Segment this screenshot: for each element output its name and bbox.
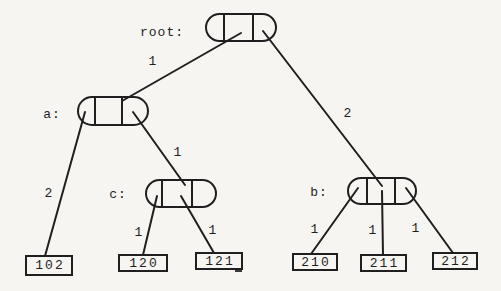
leaf-box-210: 210 bbox=[292, 253, 338, 271]
node-label-b: b: bbox=[310, 186, 328, 199]
leaf-value-102: 102 bbox=[35, 259, 64, 272]
leaf-box-102: 102 bbox=[25, 255, 73, 276]
edge-lines bbox=[45, 31, 453, 256]
edge-c-120 bbox=[143, 196, 157, 255]
edge-label-b-211: 1 bbox=[369, 224, 378, 237]
edge-label-a-c: 1 bbox=[174, 146, 183, 159]
leaf-value-211: 211 bbox=[370, 257, 399, 270]
edge-label-c-120: 1 bbox=[135, 226, 144, 239]
edge-label-b-210: 1 bbox=[311, 223, 320, 236]
node-root-pill bbox=[206, 14, 276, 41]
edge-root-b bbox=[263, 31, 382, 186]
diagram-artwork bbox=[0, 0, 501, 291]
tree-diagram: root: a: c: b: 1 2 2 1 1 1 1 1 1 102 120… bbox=[0, 0, 501, 291]
node-label-a: a: bbox=[43, 108, 61, 121]
edge-a-102 bbox=[45, 112, 85, 256]
leaf-box-120: 120 bbox=[118, 254, 168, 272]
edge-label-root-b: 2 bbox=[344, 107, 353, 120]
edge-root-a bbox=[122, 33, 241, 101]
leaf-box-121: 121 bbox=[195, 252, 243, 270]
leaf-value-121: 121 bbox=[205, 255, 234, 268]
leaf-value-212: 212 bbox=[441, 255, 470, 268]
edge-label-root-a: 1 bbox=[149, 55, 158, 68]
edge-label-c-121: 1 bbox=[209, 224, 218, 237]
leaf-value-210: 210 bbox=[301, 256, 330, 269]
leaf-box-212: 212 bbox=[432, 252, 478, 270]
node-label-root: root: bbox=[140, 26, 184, 39]
edge-b-211 bbox=[382, 191, 383, 255]
node-label-c: c: bbox=[109, 188, 127, 201]
node-c-pill bbox=[146, 180, 216, 207]
leaf-box-211: 211 bbox=[360, 254, 407, 272]
edge-label-b-212: 1 bbox=[412, 222, 421, 235]
leaf-value-120: 120 bbox=[129, 257, 158, 270]
edge-label-a-102: 2 bbox=[45, 187, 54, 200]
node-a-pill bbox=[78, 97, 148, 125]
scan-artifact-dash bbox=[235, 270, 242, 272]
